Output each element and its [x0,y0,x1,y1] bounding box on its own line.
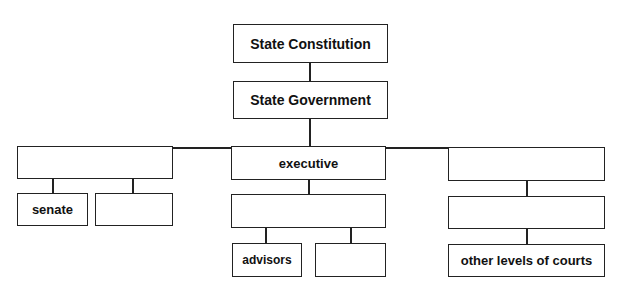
governor-box [231,194,386,228]
senate-box: senate [17,193,88,226]
executive-box: executive [231,146,386,180]
state-government-box: State Government [233,81,388,119]
house-box [95,193,173,226]
departments-box [315,243,386,277]
advisors-box: advisors [232,243,302,277]
other-courts-box: other levels of courts [448,244,605,277]
legislative-box [17,146,173,179]
connector [132,179,134,193]
judicial-box [448,147,605,181]
connector [350,228,352,243]
connector [308,180,310,194]
connector [309,119,311,147]
state-constitution-box: State Constitution [233,24,388,63]
supreme-court-box [448,196,605,229]
connector [309,63,311,81]
connector [526,181,528,196]
connector [265,228,267,243]
connector [52,179,54,193]
connector [526,229,528,244]
